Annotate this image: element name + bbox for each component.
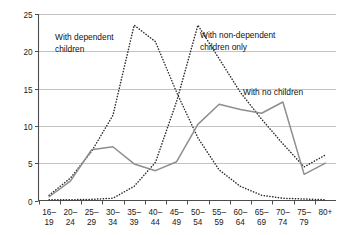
y-tick-label-5: 5 [28, 160, 33, 169]
annotation-no-children-line-1: With no children [243, 87, 303, 97]
y-tick-label-25: 25 [23, 11, 33, 20]
line-chart-canvas: 0510152025 16–1920–2425–2930–3435–3940–4… [0, 0, 346, 235]
x-tick-label-line1: 70– [276, 208, 290, 217]
annotation-no-children: With no children [243, 87, 303, 97]
x-tick-label-line2: 79 [300, 218, 310, 227]
x-tick-label-line2: 64 [236, 218, 246, 227]
x-tick-label-line2: 24 [66, 218, 76, 227]
chart-figure: 0510152025 16–1920–2425–2930–3435–3940–4… [0, 0, 346, 235]
annotation-non-dependent-children-line-2: children only [200, 42, 248, 52]
x-tick-label-line2: 69 [257, 218, 267, 227]
x-tick-label-line1: 16– [42, 208, 56, 217]
x-tick-label-line1: 65– [255, 208, 269, 217]
x-tick-label-line1: 20– [64, 208, 78, 217]
x-tick-label-line1: 35– [127, 208, 141, 217]
x-tick-label-line1: 80+ [318, 208, 332, 217]
y-tick-label-10: 10 [23, 123, 33, 132]
x-tick-label-80+: 80+ [318, 208, 332, 217]
x-tick-label-line2: 34 [108, 218, 118, 227]
y-tick-label-0: 0 [28, 198, 33, 207]
x-tick-label-line1: 40– [149, 208, 163, 217]
annotation-dependent-children-line-1: With dependent [55, 32, 114, 42]
x-tick-label-line1: 45– [170, 208, 184, 217]
x-tick-label-line1: 75– [297, 208, 311, 217]
y-tick-label-20: 20 [23, 48, 33, 57]
annotation-dependent-children-line-2: children [55, 44, 85, 54]
x-tick-label-line2: 74 [278, 218, 288, 227]
x-tick-label-line2: 39 [130, 218, 140, 227]
x-tick-label-line2: 44 [151, 218, 161, 227]
x-tick-label-line2: 59 [215, 218, 225, 227]
x-tick-label-line1: 55– [212, 208, 226, 217]
x-tick-label-line1: 60– [234, 208, 248, 217]
x-tick-label-line1: 30– [106, 208, 120, 217]
x-tick-label-line2: 29 [87, 218, 97, 227]
x-tick-label-line1: 50– [191, 208, 205, 217]
annotation-non-dependent-children-line-1: With non-dependent [200, 30, 276, 40]
x-tick-label-line2: 49 [172, 218, 182, 227]
x-tick-label-line2: 19 [45, 218, 55, 227]
x-tick-label-line1: 25– [85, 208, 99, 217]
x-tick-label-line2: 54 [193, 218, 203, 227]
y-tick-label-15: 15 [23, 86, 33, 95]
